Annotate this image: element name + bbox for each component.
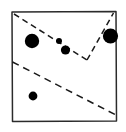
frame-group	[12, 12, 117, 122]
upper-dashed-boundary	[14, 14, 87, 60]
data-point-small-middle	[56, 38, 62, 44]
data-point-large-left	[25, 34, 39, 48]
data-point-medium-middle	[61, 45, 70, 54]
dot-cluster-diagram	[0, 0, 126, 132]
data-point-medium-bottom-left	[29, 92, 38, 101]
data-points-group	[25, 28, 118, 100]
square-border-icon	[12, 12, 117, 122]
figure-root	[0, 0, 126, 132]
partition-lines-group	[13, 13, 117, 115]
data-point-large-right	[103, 28, 118, 43]
lower-dashed-boundary	[13, 62, 117, 115]
